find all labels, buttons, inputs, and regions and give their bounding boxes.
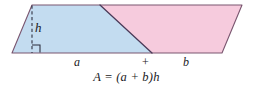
base-b-label: b (183, 56, 189, 68)
area-formula: A = (a + b)h (0, 70, 253, 85)
base-a-label: a (74, 56, 80, 68)
geometry-figure: h a + b A = (a + b)h (0, 0, 253, 89)
height-label: h (35, 21, 42, 34)
plus-sign-label: + (142, 56, 149, 68)
